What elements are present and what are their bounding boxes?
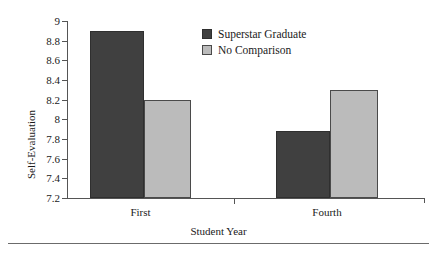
y-axis-tick [62, 119, 68, 120]
bar-fourth-no-comparison[interactable] [330, 90, 378, 198]
y-axis-tick [62, 60, 68, 61]
chart-figure: Self-Evaluation 98.88.68.48.287.87.67.47… [0, 0, 437, 253]
y-axis-tick-label: 8.2 [20, 95, 60, 106]
x-axis-label-fourth: Fourth [287, 206, 367, 218]
y-axis-tick-label: 7.2 [20, 193, 60, 204]
legend-label: No Comparison [218, 44, 291, 56]
y-axis-tick-label: 7.4 [20, 173, 60, 184]
legend-item[interactable]: Superstar Graduate [202, 27, 306, 41]
y-axis-tick-labels: 98.88.68.48.287.87.67.47.2 [14, 0, 60, 253]
y-axis-tick-label: 9 [20, 16, 60, 27]
x-axis-title: Student Year [0, 225, 437, 237]
y-axis-tick [62, 178, 68, 179]
y-axis-tick-label: 7.8 [20, 134, 60, 145]
y-axis-tick [62, 198, 68, 199]
y-axis-tick [62, 100, 68, 101]
x-axis-end-tick [424, 198, 425, 203]
y-axis-tick-label: 8 [20, 114, 60, 125]
legend-swatch-icon [202, 29, 212, 39]
y-axis-tick-label: 7.6 [20, 154, 60, 165]
legend-swatch-icon [202, 45, 212, 55]
y-axis-tick [62, 21, 68, 22]
y-axis-tick-label: 8.8 [20, 36, 60, 47]
y-axis-tick [62, 139, 68, 140]
y-axis-tick [62, 80, 68, 81]
x-axis-line [67, 198, 425, 199]
legend-label: Superstar Graduate [218, 28, 306, 40]
x-axis-tick [234, 199, 235, 204]
bar-first-superstar-graduate[interactable] [90, 31, 144, 198]
y-axis-tick [62, 41, 68, 42]
legend-item[interactable]: No Comparison [202, 43, 306, 57]
bar-first-no-comparison[interactable] [144, 100, 191, 198]
y-axis-tick-label: 8.6 [20, 55, 60, 66]
bar-fourth-superstar-graduate[interactable] [276, 131, 330, 198]
y-axis-tick-label: 8.4 [20, 75, 60, 86]
x-axis-label-first: First [101, 206, 181, 218]
chart-legend: Superstar GraduateNo Comparison [202, 27, 306, 59]
bottom-divider [8, 243, 429, 244]
y-axis-tick [62, 159, 68, 160]
